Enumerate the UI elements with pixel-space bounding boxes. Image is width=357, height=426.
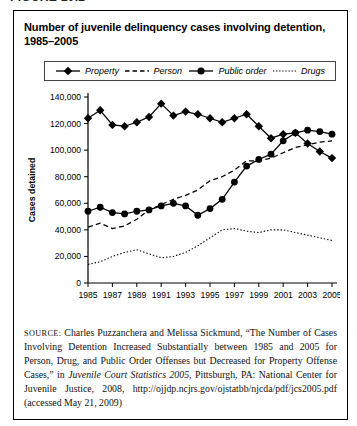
svg-text:1985: 1985 <box>78 290 97 300</box>
chart-area: 020,00040,00060,00080,000100,000120,0001… <box>24 85 337 323</box>
svg-text:100,000: 100,000 <box>50 145 81 155</box>
svg-text:2005: 2005 <box>322 290 340 300</box>
svg-text:1989: 1989 <box>127 290 146 300</box>
svg-text:20,000: 20,000 <box>55 251 82 261</box>
page: FIGURE 10.2 Number of juvenile delinquen… <box>0 0 357 426</box>
figure-box: Number of juvenile delinquency cases inv… <box>13 10 348 420</box>
figure-number-label: FIGURE 10.2 <box>10 0 85 4</box>
figure-title: Number of juvenile delinquency cases inv… <box>24 20 337 49</box>
svg-text:140,000: 140,000 <box>50 92 81 102</box>
svg-text:Cases detained: Cases detained <box>27 157 37 222</box>
property-line-diamond-icon <box>55 66 81 76</box>
svg-text:1987: 1987 <box>103 290 122 300</box>
svg-text:80,000: 80,000 <box>55 171 82 181</box>
legend-item-drugs: Drugs <box>273 66 325 76</box>
svg-text:1995: 1995 <box>200 290 219 300</box>
source-label: SOURCE: <box>24 329 61 338</box>
line-chart: 020,00040,00060,00080,000100,000120,0001… <box>24 85 340 319</box>
svg-text:2003: 2003 <box>298 290 317 300</box>
svg-text:1997: 1997 <box>225 290 244 300</box>
legend-label: Drugs <box>301 66 325 76</box>
legend-item-public-order: Public order <box>188 66 266 76</box>
source-citation: SOURCE: Charles Puzzanchera and Melissa … <box>24 326 337 410</box>
svg-text:1999: 1999 <box>249 290 268 300</box>
svg-text:60,000: 60,000 <box>55 198 82 208</box>
svg-text:1991: 1991 <box>152 290 171 300</box>
legend-item-property: Property <box>55 66 119 76</box>
svg-text:0: 0 <box>76 278 81 288</box>
legend-label: Person <box>153 66 182 76</box>
legend-label: Property <box>85 66 119 76</box>
legend-item-person: Person <box>125 66 182 76</box>
svg-text:2001: 2001 <box>274 290 293 300</box>
dashed-line-icon <box>125 66 149 76</box>
dotted-line-icon <box>273 66 297 76</box>
line-circle-icon <box>188 66 214 76</box>
svg-text:120,000: 120,000 <box>50 118 81 128</box>
chart-legend: Property Person Public order Drugs <box>44 61 336 81</box>
svg-text:1993: 1993 <box>176 290 195 300</box>
svg-text:40,000: 40,000 <box>55 224 82 234</box>
source-text-italic: Juvenile Court Statistics 2005 <box>68 369 189 380</box>
legend-label: Public order <box>218 66 266 76</box>
